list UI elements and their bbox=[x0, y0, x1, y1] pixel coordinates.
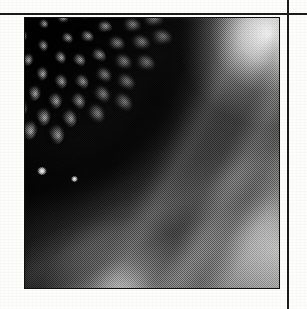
halftone-photograph: Close-up black and white halftone photog… bbox=[25, 18, 279, 288]
floret-highlight bbox=[71, 176, 78, 182]
horizontal-rule-line bbox=[0, 13, 307, 15]
vertical-rule-line bbox=[287, 0, 289, 309]
photo-layer-stack bbox=[25, 18, 279, 288]
floret-highlight bbox=[37, 167, 47, 175]
floret-highlights bbox=[25, 18, 279, 288]
scanned-page: Close-up black and white halftone photog… bbox=[0, 0, 307, 309]
